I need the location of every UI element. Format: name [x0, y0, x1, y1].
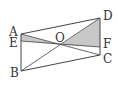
label-f: F: [103, 37, 111, 51]
label-o: O: [55, 31, 65, 45]
label-c: C: [103, 52, 112, 66]
label-b: B: [10, 66, 19, 80]
label-d: D: [103, 9, 113, 23]
label-e: E: [9, 36, 18, 50]
parallelogram-diagram: A E B O D F C: [0, 0, 118, 91]
